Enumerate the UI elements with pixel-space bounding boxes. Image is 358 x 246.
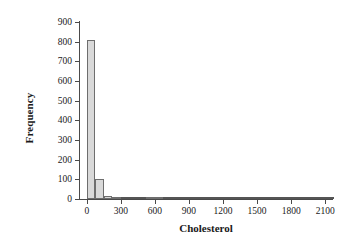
- x-axis-line: [79, 199, 333, 200]
- y-axis-tick: [75, 179, 80, 180]
- y-axis-tick-label: 400: [58, 115, 72, 125]
- x-axis-tick-label: 2100: [316, 206, 335, 216]
- x-axis-tick-label: 900: [182, 206, 196, 216]
- y-axis-tick: [75, 42, 80, 43]
- histogram-bar: [95, 179, 104, 199]
- histogram-bar: [300, 197, 309, 199]
- histogram-bar: [240, 197, 249, 199]
- histogram-chart: Frequency 0100200300400500600700800900 C…: [0, 0, 358, 246]
- histogram-bar: [266, 197, 275, 199]
- histogram-bar: [129, 197, 138, 199]
- histogram-bar: [317, 197, 326, 199]
- y-axis-tick-label: 200: [58, 155, 72, 165]
- x-axis-tick: [291, 199, 292, 204]
- histogram-bar: [146, 197, 155, 199]
- histogram-bar: [180, 197, 189, 199]
- histogram-bar: [155, 197, 164, 199]
- x-axis-tick: [223, 199, 224, 204]
- x-axis-tick: [121, 199, 122, 204]
- x-axis-tick-label: 300: [114, 206, 128, 216]
- plot-area: 0100200300400500600700800900: [80, 22, 332, 199]
- y-axis-tick-label: 0: [67, 194, 72, 204]
- x-axis-tick-label: 1200: [214, 206, 233, 216]
- histogram-bar: [232, 197, 241, 199]
- y-axis-tick: [75, 120, 80, 121]
- y-axis-tick: [75, 199, 80, 200]
- histogram-bar: [104, 196, 113, 199]
- histogram-bar: [163, 197, 172, 199]
- x-axis-title: Cholesterol: [80, 222, 332, 234]
- y-axis-tick-label: 700: [58, 56, 72, 66]
- x-axis-tick-label: 600: [148, 206, 162, 216]
- histogram-bar: [283, 197, 292, 199]
- y-axis-tick-label: 600: [58, 76, 72, 86]
- histogram-bar: [172, 197, 181, 199]
- histogram-bar: [291, 197, 300, 199]
- histogram-bar: [112, 197, 121, 199]
- y-axis-tick: [75, 81, 80, 82]
- x-axis-tick: [257, 199, 258, 204]
- y-axis-tick-label: 300: [58, 135, 72, 145]
- histogram-bar: [249, 197, 258, 199]
- x-axis-tick: [155, 199, 156, 204]
- y-axis-tick: [75, 140, 80, 141]
- histogram-bar: [274, 197, 283, 199]
- x-axis-tick: [87, 199, 88, 204]
- histogram-bar: [206, 197, 215, 199]
- y-axis-tick: [75, 101, 80, 102]
- y-axis-tick: [75, 22, 80, 23]
- histogram-bar: [197, 197, 206, 199]
- y-axis-tick-label: 100: [58, 174, 72, 184]
- y-axis-title: Frequency: [23, 68, 35, 168]
- histogram-bar: [121, 197, 130, 199]
- y-axis-tick: [75, 160, 80, 161]
- y-axis-tick: [75, 61, 80, 62]
- histogram-bar: [308, 197, 317, 199]
- y-axis-tick-label: 800: [58, 37, 72, 47]
- y-axis-tick-label: 900: [58, 17, 72, 27]
- histogram-bar: [138, 197, 147, 199]
- x-axis-tick-label: 1800: [282, 206, 301, 216]
- histogram-bar: [223, 197, 232, 199]
- x-axis-tick-label: 1500: [248, 206, 267, 216]
- histogram-bar: [257, 197, 266, 199]
- y-axis-tick-label: 500: [58, 96, 72, 106]
- histogram-bar: [189, 197, 198, 199]
- histogram-bar: [325, 197, 334, 199]
- x-axis-tick: [325, 199, 326, 204]
- x-axis-tick: [189, 199, 190, 204]
- histogram-bar: [215, 197, 224, 199]
- x-axis-tick-label: 0: [84, 206, 89, 216]
- histogram-bar: [87, 40, 96, 199]
